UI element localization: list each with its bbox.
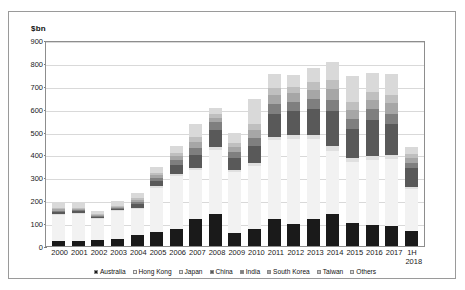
plot-area [45, 41, 425, 247]
bar-column[interactable] [189, 42, 202, 246]
bar-segment [346, 102, 359, 110]
legend-item[interactable]: China [210, 268, 233, 275]
bar-column[interactable] [287, 42, 300, 246]
bar-stack [111, 201, 124, 246]
bar-segment [385, 159, 398, 226]
bar-segment [346, 162, 359, 223]
y-axis-tick-label: 500 [17, 129, 43, 138]
bar-stack [326, 62, 339, 246]
bar-column[interactable] [307, 42, 320, 246]
bar-segment [366, 225, 379, 247]
bar-segment [307, 109, 320, 135]
legend-swatch-icon [240, 270, 244, 274]
bar-segment [91, 219, 104, 240]
bar-segment [209, 214, 222, 246]
bar-stack [346, 76, 359, 246]
bar-column[interactable] [52, 42, 65, 246]
bar-segment [209, 130, 222, 147]
legend-item[interactable]: Others [350, 268, 376, 275]
bar-segment [385, 124, 398, 154]
bar-stack [366, 73, 379, 246]
bar-segment [268, 88, 281, 95]
bar-segment [366, 92, 379, 100]
legend-item[interactable]: Japan [179, 268, 203, 275]
bar-stack [150, 167, 163, 246]
legend-label: India [246, 268, 260, 275]
bar-segment [346, 129, 359, 158]
bar-segment [405, 231, 418, 246]
y-axis: 9008007006005004003002001000 [9, 41, 43, 247]
y-axis-tick-label: 600 [17, 106, 43, 115]
bar-column[interactable] [150, 42, 163, 246]
bar-segment [268, 140, 281, 219]
bar-segment [385, 226, 398, 246]
bar-column[interactable] [131, 42, 144, 246]
bar-column[interactable] [346, 42, 359, 246]
bar-segment [366, 160, 379, 224]
bar-segment [91, 240, 104, 246]
legend-item[interactable]: Hong Kong [133, 268, 172, 275]
bar-segment [150, 188, 163, 232]
bar-column[interactable] [268, 42, 281, 246]
legend-label: Japan [185, 268, 203, 275]
bar-segment [248, 229, 261, 246]
bar-segment [307, 139, 320, 219]
bar-segment [385, 74, 398, 96]
bar-segment [326, 80, 339, 89]
bar-segment [248, 99, 261, 124]
bar-segment [405, 147, 418, 155]
bar-segment [287, 93, 300, 101]
bar-segment [287, 139, 300, 224]
bar-segment [326, 111, 339, 146]
y-axis-tick-label: 0 [17, 243, 43, 252]
bar-column[interactable] [366, 42, 379, 246]
bar-column[interactable] [72, 42, 85, 246]
legend-label: Taiwan [323, 268, 344, 275]
bar-segment [170, 229, 183, 246]
bar-segment [170, 165, 183, 174]
bar-stack [405, 147, 418, 247]
bar-segment [385, 95, 398, 103]
bar-segment [287, 87, 300, 94]
legend-label: China [216, 268, 233, 275]
bar-stack [385, 74, 398, 246]
legend-item[interactable]: India [240, 268, 260, 275]
legend-item[interactable]: Taiwan [317, 268, 344, 275]
legend-item[interactable]: South Korea [267, 268, 310, 275]
bar-column[interactable] [228, 42, 241, 246]
bar-segment [405, 168, 418, 187]
legend-label: Others [356, 268, 376, 275]
bar-segment [326, 214, 339, 246]
bar-segment [405, 189, 418, 231]
bar-column[interactable] [91, 42, 104, 246]
bar-stack [170, 146, 183, 246]
bar-column[interactable] [111, 42, 124, 246]
bar-segment [228, 172, 241, 233]
bar-segment [72, 214, 85, 241]
bar-segment [366, 120, 379, 156]
y-axis-tick-label: 100 [17, 220, 43, 229]
bar-stack [307, 68, 320, 246]
bar-stack [228, 133, 241, 246]
bar-segment [385, 114, 398, 125]
legend-swatch-icon [133, 270, 137, 274]
bar-segment [248, 138, 261, 146]
bar-column[interactable] [405, 42, 418, 246]
bar-segment [326, 100, 339, 111]
bar-segment [131, 235, 144, 246]
legend-item[interactable]: Australia [94, 268, 126, 275]
bar-column[interactable] [170, 42, 183, 246]
bar-segment [326, 62, 339, 79]
bar-segment [131, 209, 144, 235]
bar-column[interactable] [209, 42, 222, 246]
bar-segment [326, 89, 339, 100]
bar-column[interactable] [326, 42, 339, 246]
bar-segment [268, 114, 281, 137]
bar-segment [366, 100, 379, 110]
bar-segment [52, 241, 65, 246]
bar-column[interactable] [248, 42, 261, 246]
y-axis-tick-label: 400 [17, 151, 43, 160]
bar-column[interactable] [385, 42, 398, 246]
bar-segment [150, 232, 163, 246]
bar-segment [307, 90, 320, 99]
